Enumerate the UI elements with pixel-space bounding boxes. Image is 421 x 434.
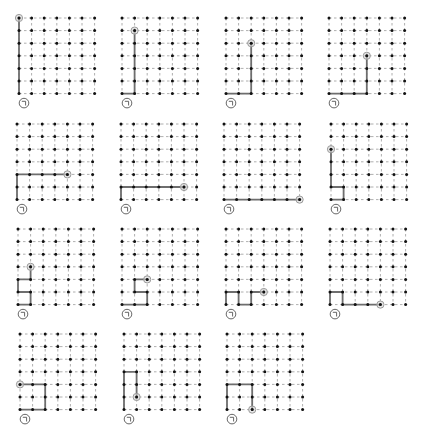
- grid-dot: [29, 278, 32, 281]
- grid-dot: [160, 408, 163, 411]
- grid-dot: [183, 198, 186, 201]
- grid-dot: [171, 303, 174, 306]
- grid-dot: [120, 135, 123, 138]
- grid-dot: [196, 67, 199, 70]
- grid-dot: [146, 54, 149, 57]
- grid-dot: [28, 160, 31, 163]
- grid-dot: [69, 333, 72, 336]
- grid-dot: [173, 358, 176, 361]
- grid-dot: [133, 265, 136, 268]
- diagram-canvas: [0, 0, 421, 434]
- grid-dot: [160, 345, 163, 348]
- grid-dot: [146, 228, 149, 231]
- grid-dot: [195, 148, 198, 151]
- grid-dot: [184, 17, 187, 20]
- grid-dot: [288, 240, 291, 243]
- grid-panel-10: [121, 228, 200, 319]
- grid-dot: [158, 240, 161, 243]
- grid-dot: [79, 123, 82, 126]
- grid-dot: [238, 383, 241, 386]
- grid-dot: [157, 148, 160, 151]
- grid-dot: [56, 370, 59, 373]
- grid-dot: [184, 228, 187, 231]
- grid-dot: [183, 123, 186, 126]
- grid-dot: [67, 291, 70, 294]
- grid-dot: [56, 345, 59, 348]
- grid-dot: [170, 123, 173, 126]
- grid-dot: [160, 358, 163, 361]
- grid-dot: [146, 240, 149, 243]
- grid-dot: [273, 173, 276, 176]
- grid-dot: [300, 240, 303, 243]
- grid-dot: [354, 240, 357, 243]
- grid-dot: [66, 123, 69, 126]
- grid-dot: [184, 303, 187, 306]
- grid-panel-14: [123, 333, 202, 424]
- grid-dot: [121, 303, 124, 306]
- grid-dot: [121, 42, 124, 45]
- grid-dot: [184, 253, 187, 256]
- grid-dot: [171, 253, 174, 256]
- grid-dot: [225, 278, 228, 281]
- grid-dot: [17, 228, 20, 231]
- grid-dot: [237, 278, 240, 281]
- grid-dot: [170, 198, 173, 201]
- grid-dot: [273, 186, 276, 189]
- grid-dot: [275, 92, 278, 95]
- grid-dot: [146, 17, 149, 20]
- grid-dot: [262, 303, 265, 306]
- grid-dot: [53, 173, 56, 176]
- grid-dot: [196, 92, 199, 95]
- grid-dot: [66, 198, 69, 201]
- grid-dot: [237, 17, 240, 20]
- grid-dot: [195, 123, 198, 126]
- grid-dot: [379, 278, 382, 281]
- grid-dot: [263, 383, 266, 386]
- grid-dot: [405, 186, 408, 189]
- grid-dot: [262, 17, 265, 20]
- grid-dot: [81, 92, 84, 95]
- grid-dot: [171, 42, 174, 45]
- grid-dot: [237, 303, 240, 306]
- grid-dot: [121, 67, 124, 70]
- grid-dot: [251, 333, 254, 336]
- grid-dot: [225, 291, 228, 294]
- grid-dot: [273, 123, 276, 126]
- grid-dot: [79, 186, 82, 189]
- grid-dot: [378, 67, 381, 70]
- grid-panel-5: [16, 123, 95, 214]
- grid-dot: [393, 160, 396, 163]
- grid-dot: [31, 345, 34, 348]
- grid-dot: [263, 333, 266, 336]
- grid-dot: [393, 148, 396, 151]
- grid-dot: [379, 240, 382, 243]
- grid-dot: [94, 408, 97, 411]
- grid-dot: [237, 80, 240, 83]
- grid-dot: [196, 80, 199, 83]
- grid-dot: [157, 123, 160, 126]
- grid-dot: [55, 17, 58, 20]
- grid-dot: [80, 265, 83, 268]
- grid-dot: [392, 291, 395, 294]
- grid-dot: [81, 67, 84, 70]
- grid-dot: [42, 228, 45, 231]
- grid-dot: [146, 42, 149, 45]
- grid-dot: [158, 92, 161, 95]
- grid-dot: [289, 358, 292, 361]
- grid-dot: [195, 173, 198, 176]
- grid-dot: [123, 358, 126, 361]
- grid-dot: [92, 278, 95, 281]
- grid-dot: [183, 148, 186, 151]
- grid-dot: [404, 228, 407, 231]
- grid-dot: [170, 135, 173, 138]
- grid-dot: [132, 173, 135, 176]
- grid-dot: [367, 148, 370, 151]
- grid-dot: [93, 67, 96, 70]
- grid-dot: [28, 186, 31, 189]
- grid-dot: [93, 54, 96, 57]
- grid-dot: [391, 29, 394, 32]
- grid-dot: [41, 135, 44, 138]
- grid-dot: [250, 17, 253, 20]
- grid-dot: [186, 358, 189, 361]
- grid-dot: [82, 396, 85, 399]
